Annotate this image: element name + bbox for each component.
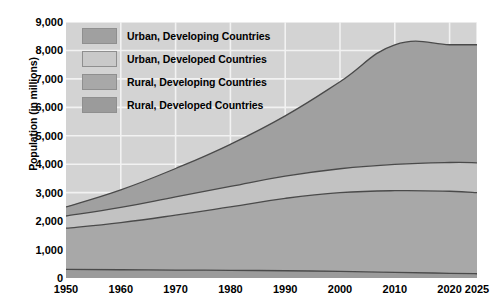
y-axis-tick-label: 4,000 (23, 158, 63, 170)
legend-item-label: Rural, Developed Countries (127, 99, 263, 111)
legend-item: Urban, Developed Countries (82, 49, 342, 69)
y-axis-tick-labels: 01,0002,0003,0004,0005,0006,0007,0008,00… (20, 0, 63, 307)
legend-item: Urban, Developing Countries (82, 26, 342, 46)
y-axis-tick-label: 5,000 (23, 130, 63, 142)
legend-item: Rural, Developed Countries (82, 95, 342, 115)
x-axis-tick-label: 1980 (218, 283, 242, 295)
legend-item-label: Urban, Developed Countries (127, 53, 267, 65)
chart-legend: Urban, Developing CountriesUrban, Develo… (82, 26, 342, 118)
legend-item-label: Rural, Developing Countries (127, 76, 267, 88)
x-axis-tick-label: 2020 (437, 283, 461, 295)
x-axis-tick-label: 1960 (109, 283, 133, 295)
x-axis-tick-label: 2000 (328, 283, 352, 295)
y-axis-tick-label: 7,000 (23, 73, 63, 85)
legend-color-swatch (82, 97, 117, 113)
x-axis-tick-label: 1970 (163, 283, 187, 295)
x-axis-tick-label: 1990 (273, 283, 297, 295)
legend-item: Rural, Developing Countries (82, 72, 342, 92)
x-axis-tick-labels: 195019601970198019902000201020202025 (0, 283, 490, 303)
population-area-chart: Population (in millions) 01,0002,0003,00… (0, 0, 490, 307)
legend-color-swatch (82, 74, 117, 90)
y-axis-tick-label: 3,000 (23, 187, 63, 199)
x-axis-tick-label: 1950 (54, 283, 78, 295)
y-axis-tick-label: 2,000 (23, 215, 63, 227)
y-axis-tick-label: 1,000 (23, 244, 63, 256)
x-axis-tick-label: 2025 (465, 283, 489, 295)
x-axis-tick-label: 2010 (383, 283, 407, 295)
y-axis-tick-label: 6,000 (23, 101, 63, 113)
y-axis-tick-label: 8,000 (23, 44, 63, 56)
y-axis-tick-label: 9,000 (23, 16, 63, 28)
legend-color-swatch (82, 51, 117, 67)
legend-color-swatch (82, 28, 117, 44)
legend-item-label: Urban, Developing Countries (127, 30, 270, 42)
